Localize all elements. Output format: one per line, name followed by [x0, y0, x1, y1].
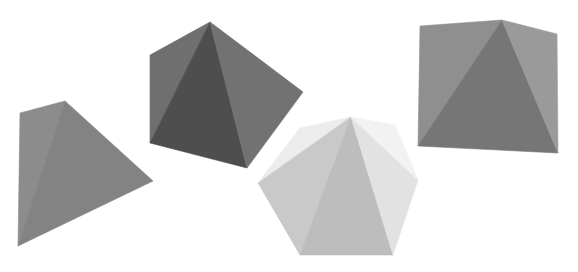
hexagonal-pyramid-light: [258, 117, 418, 255]
shapes-group: [18, 20, 558, 255]
pyramids-scene: [0, 0, 578, 272]
square-pyramid-left: [18, 101, 153, 246]
pentagonal-pyramid-dark: [150, 22, 303, 168]
square-pyramid-right: [418, 20, 558, 153]
